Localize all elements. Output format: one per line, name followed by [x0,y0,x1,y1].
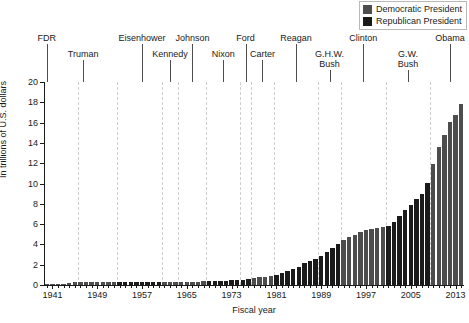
president-label-line: Bush [315,59,344,69]
x-tick-minor [293,285,294,288]
bar [336,244,340,285]
president-label-line: Bush [398,59,419,69]
bar [381,227,385,285]
president-leader-line [363,44,364,82]
x-tick-minor [103,285,104,288]
x-tick-minor [388,285,389,288]
x-tick-minor [433,285,434,288]
x-tick-minor [80,285,81,288]
president-label: Clinton [349,33,377,43]
president-leader-line [47,44,48,82]
bar [291,269,295,285]
y-tick-label: 14 [28,138,38,148]
x-tick-minor [159,285,160,288]
bar [392,222,396,285]
president-leader-line [330,70,331,82]
president-label: Nixon [212,49,235,59]
president-label-line: G.H.W. [315,49,344,59]
x-tick-minor [176,285,177,288]
bar [353,235,357,285]
x-tick-minor [153,285,154,288]
bar [269,276,273,285]
president-label-line: Kennedy [152,49,188,59]
legend-item-democratic: Democratic President [363,4,462,15]
president-label: FDR [38,33,57,43]
bar [257,277,261,285]
x-tick-minor [164,285,165,288]
x-tick-minor [461,285,462,288]
bar [397,216,401,285]
x-tick-major [52,285,53,289]
y-tick [40,82,44,83]
x-tick-minor [450,285,451,288]
bar [414,199,418,285]
president-label: Obama [435,33,465,43]
president-leader-line [408,70,409,82]
term-divider [274,82,275,285]
bar [347,237,351,285]
president-leader-line [170,60,171,82]
president-leader-line [296,44,297,82]
bar [319,256,323,285]
x-tick-minor [86,285,87,288]
x-axis-label: Fiscal year [44,305,464,315]
bar [263,277,267,285]
x-tick-minor [215,285,216,288]
x-tick-minor [355,285,356,288]
x-tick-minor [69,285,70,288]
president-label-line: Eisenhower [118,33,165,43]
y-tick-label: 16 [28,118,38,128]
x-tick-major [456,285,457,289]
x-tick-minor [349,285,350,288]
y-tick-label: 8 [33,199,38,209]
president-label: Truman [68,49,99,59]
x-tick-label: 1981 [266,290,286,300]
y-tick [40,184,44,185]
x-tick-minor [377,285,378,288]
president-label: Johnson [175,33,209,43]
y-tick-label: 2 [33,260,38,270]
x-tick-minor [108,285,109,288]
president-label-line: Clinton [349,33,377,43]
bar [308,261,312,285]
x-tick-minor [170,285,171,288]
x-tick-label: 1957 [132,290,152,300]
president-label-line: G.W. [398,49,419,59]
x-tick-minor [136,285,137,288]
bar [274,275,278,285]
bar [403,210,407,285]
bar [420,194,424,285]
y-tick [40,163,44,164]
term-divider [117,82,118,285]
y-tick-label: 10 [28,179,38,189]
bar [453,115,457,285]
x-tick-minor [282,285,283,288]
bar [425,183,429,285]
y-tick [40,123,44,124]
chart-legend: Democratic President Republican Presiden… [359,1,467,30]
president-leader-line [223,60,224,82]
x-tick-minor [92,285,93,288]
president-label-line: Johnson [175,33,209,43]
x-tick-minor [400,285,401,288]
x-tick-minor [360,285,361,288]
x-tick-minor [383,285,384,288]
president-label-line: Ford [236,33,255,43]
term-divider [240,82,241,285]
y-tick-label: 0 [33,280,38,290]
legend-item-republican: Republican President [363,16,462,27]
x-tick-minor [220,285,221,288]
x-tick-minor [316,285,317,288]
president-label: Ford [236,33,255,43]
president-label-line: Reagan [280,33,312,43]
president-label: G.H.W.Bush [315,49,344,69]
term-divider [206,82,207,285]
bar [386,226,390,285]
y-axis-label: In trillions of U.S. dollars [0,81,8,178]
x-tick-minor [310,285,311,288]
x-tick-label: 1973 [222,290,242,300]
bar [341,240,345,285]
x-tick-minor [192,285,193,288]
x-tick-major [97,285,98,289]
bar [459,104,463,285]
